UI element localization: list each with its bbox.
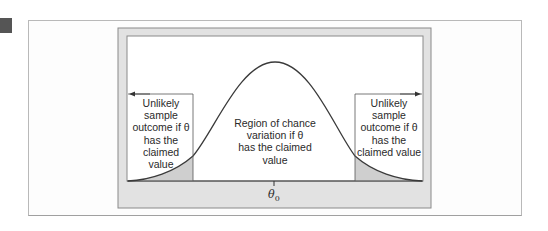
left-label-line: sample: [129, 109, 193, 121]
right-label-line: sample: [356, 109, 422, 121]
right-label-line: has the: [356, 134, 422, 146]
left-label-line: outcome if θ: [129, 121, 193, 133]
center-label-line: Region of chance: [222, 117, 328, 129]
theta0-label: θ0: [268, 188, 280, 203]
right-label-line: Unlikely: [356, 97, 422, 109]
left-region-label: Unlikely sample outcome if θ has the cla…: [129, 97, 193, 170]
center-label-line: variation if θ: [222, 129, 328, 141]
left-label-line: has the: [129, 134, 193, 146]
left-label-line: claimed value: [129, 146, 193, 170]
right-label-line: claimed value: [356, 146, 422, 158]
right-region-label: Unlikely sample outcome if θ has the cla…: [356, 97, 422, 158]
left-label-line: Unlikely: [129, 97, 193, 109]
center-region-label: Region of chance variation if θ has the …: [222, 117, 328, 166]
theta-symbol: θ: [268, 188, 275, 201]
center-label-line: value: [222, 154, 328, 166]
right-label-line: outcome if θ: [356, 121, 422, 133]
center-label-line: has the claimed: [222, 141, 328, 153]
theta-subscript: 0: [275, 194, 280, 203]
